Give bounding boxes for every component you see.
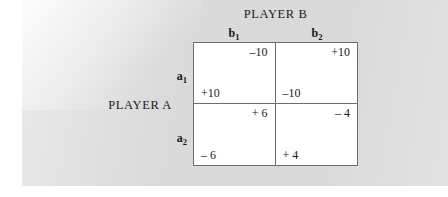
matrix-cell-a2-b1: + 6 – 6 — [194, 104, 276, 165]
row-header-a2-subscript: 2 — [183, 137, 187, 147]
matrix-cell-a1-b1: –10 +10 — [194, 43, 276, 104]
matrix-cell-a1-b2-column-payoff: +10 — [331, 45, 350, 60]
matrix-cell-a1-b2-row-payoff: –10 — [283, 86, 301, 101]
row-player-title: PLAYER A — [76, 98, 172, 113]
matrix-cell-a1-b1-column-payoff: –10 — [250, 45, 268, 60]
payoff-matrix-grid: –10 +10 +10 –10 + 6 – 6 – 4 + 4 — [193, 42, 358, 166]
column-header-b1: b1 — [193, 26, 275, 42]
column-header-b2: b2 — [276, 26, 358, 42]
matrix-cell-a2-b2-column-payoff: – 4 — [335, 106, 350, 121]
matrix-cell-a2-b2-row-payoff: + 4 — [283, 148, 299, 163]
payoff-matrix-figure: PLAYER B PLAYER A b1 b2 a1 a2 –10 +10 +1… — [0, 0, 448, 197]
column-header-b1-subscript: 1 — [235, 32, 239, 42]
matrix-cell-a1-b2: +10 –10 — [276, 43, 358, 104]
matrix-cell-a2-b2: – 4 + 4 — [276, 104, 358, 165]
row-header-a1: a1 — [160, 69, 187, 85]
page-bottom-margin — [0, 186, 448, 197]
row-header-a1-subscript: 1 — [183, 75, 187, 85]
row-header-a2: a2 — [160, 131, 187, 147]
matrix-cell-a2-b1-row-payoff: – 6 — [201, 148, 216, 163]
column-header-b2-subscript: 2 — [318, 32, 322, 42]
column-player-title: PLAYER B — [193, 7, 358, 22]
matrix-cell-a1-b1-row-payoff: +10 — [201, 86, 220, 101]
matrix-cell-a2-b1-column-payoff: + 6 — [252, 106, 268, 121]
